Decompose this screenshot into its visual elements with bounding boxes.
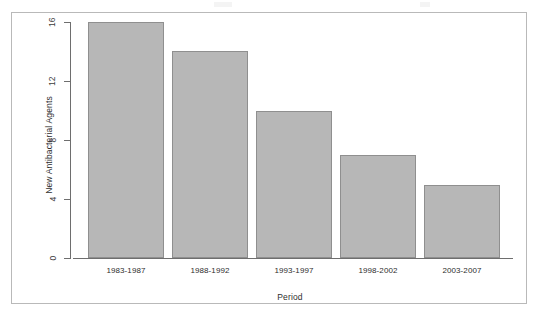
bar-1988-1992: [172, 51, 248, 258]
bar-1993-1997: [256, 111, 332, 258]
bar-1983-1987: [88, 22, 164, 258]
y-axis-line: [70, 22, 71, 259]
plot-area: 0 4 8 12 16 New Antibacterial Agents 198…: [0, 0, 539, 318]
x-axis-tick-label-1: 1983-1987: [88, 266, 164, 275]
y-axis-tick-0: [64, 258, 70, 259]
x-axis-tick-label-2: 1988-1992: [172, 266, 248, 275]
y-axis-tick-4: [64, 199, 70, 200]
y-axis-tick-16: [64, 22, 70, 23]
x-axis-title: Period: [70, 292, 510, 302]
bar-chart-figure: 0 4 8 12 16 New Antibacterial Agents 198…: [0, 0, 539, 318]
y-axis-tick-12: [64, 81, 70, 82]
bar-2003-2007: [424, 185, 500, 258]
y-axis-tick-label: 16: [49, 17, 58, 26]
bar-1998-2002: [340, 155, 416, 258]
y-axis-title: New Antibacterial Agents: [44, 55, 54, 235]
x-axis-tick-label-5: 2003-2007: [424, 266, 500, 275]
y-axis-tick-8: [64, 140, 70, 141]
y-axis-tick-label: 0: [49, 256, 58, 261]
x-axis-line: [73, 258, 513, 259]
x-axis-tick-label-4: 1998-2002: [340, 266, 416, 275]
x-axis-tick-label-3: 1993-1997: [256, 266, 332, 275]
